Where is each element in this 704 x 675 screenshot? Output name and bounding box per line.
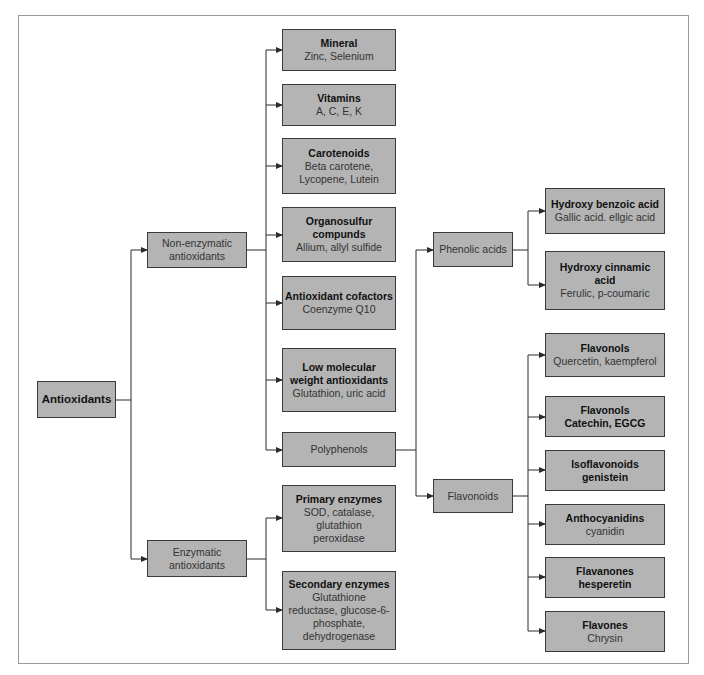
node-label: Polyphenols bbox=[310, 443, 367, 456]
node-label: Phenolic acids bbox=[439, 243, 507, 256]
node-sub: Ferulic, p-coumaric bbox=[560, 287, 649, 300]
node-vitamins: Vitamins A, C, E, K bbox=[282, 84, 396, 126]
node-sub: Allium, allyl sulfide bbox=[296, 241, 382, 254]
node-title-2: genistein bbox=[582, 471, 628, 484]
node-title: Hydroxy benzoic acid bbox=[551, 198, 659, 211]
node-polyphenols: Polyphenols bbox=[282, 432, 396, 467]
node-label: Flavonoids bbox=[448, 490, 499, 503]
node-primary-enzymes: Primary enzymes SOD, catalase, glutathio… bbox=[282, 485, 396, 552]
node-label: Enzymatic antioxidants bbox=[150, 546, 244, 572]
node-title-2: Catechin, EGCG bbox=[564, 417, 645, 430]
node-isoflavonoids: Isoflavonoids genistein bbox=[545, 450, 665, 491]
node-non-enzymatic-antioxidants: Non-enzymatic antioxidants bbox=[147, 232, 247, 268]
node-sub: Quercetin, kaempferol bbox=[553, 355, 656, 368]
node-anthocyanidins: Anthocyanidins cyanidin bbox=[545, 504, 665, 545]
node-title: Flavones bbox=[582, 619, 628, 632]
node-secondary-enzymes: Secondary enzymes Glutathione reductase,… bbox=[282, 571, 396, 650]
node-sub: Beta carotene, Lycopene, Lutein bbox=[285, 160, 393, 186]
node-title: Anthocyanidins bbox=[566, 512, 645, 525]
node-label: Non-enzymatic antioxidants bbox=[150, 237, 244, 263]
node-title: Flavonols bbox=[580, 342, 629, 355]
node-hydroxy-benzoic-acid: Hydroxy benzoic acid Gallic acid. ellgic… bbox=[545, 188, 665, 234]
node-title: Carotenoids bbox=[308, 147, 369, 160]
node-title: Antioxidant cofactors bbox=[285, 290, 393, 303]
node-antioxidants: Antioxidants bbox=[37, 381, 116, 418]
node-flavonoids: Flavonoids bbox=[433, 479, 513, 513]
node-title: Hydroxy cinnamic acid bbox=[548, 261, 662, 287]
node-title: Flavanones bbox=[576, 565, 634, 578]
node-sub: Glutathione reductase, glucose-6-phospha… bbox=[285, 591, 393, 643]
node-sub: Glutathion, uric acid bbox=[293, 387, 386, 400]
node-title: Secondary enzymes bbox=[289, 578, 390, 591]
node-sub: Chrysin bbox=[587, 632, 623, 645]
node-phenolic-acids: Phenolic acids bbox=[433, 232, 513, 267]
node-title: Isoflavonoids bbox=[571, 458, 639, 471]
node-flavonols-catechin: Flavonols Catechin, EGCG bbox=[545, 396, 665, 437]
node-carotenoids: Carotenoids Beta carotene, Lycopene, Lut… bbox=[282, 138, 396, 194]
node-title: Organosulfur compunds bbox=[285, 215, 393, 241]
node-organosulfur-compunds: Organosulfur compunds Allium, allyl sulf… bbox=[282, 207, 396, 262]
node-flavones: Flavones Chrysin bbox=[545, 611, 665, 652]
node-title-2: hesperetin bbox=[578, 578, 631, 591]
node-hydroxy-cinnamic-acid: Hydroxy cinnamic acid Ferulic, p-coumari… bbox=[545, 251, 665, 310]
node-title: Antioxidants bbox=[42, 393, 112, 406]
node-mineral: Mineral Zinc, Selenium bbox=[282, 29, 396, 71]
node-low-molecular-weight-antioxidants: Low molecular weight antioxidants Glutat… bbox=[282, 348, 396, 412]
node-title: Flavonols bbox=[580, 404, 629, 417]
node-sub: SOD, catalase, glutathion peroxidase bbox=[285, 506, 393, 545]
node-title: Vitamins bbox=[317, 92, 361, 105]
node-title: Primary enzymes bbox=[296, 493, 382, 506]
node-sub: Gallic acid. ellgic acid bbox=[555, 211, 655, 224]
node-sub: Coenzyme Q10 bbox=[303, 303, 376, 316]
node-sub: cyanidin bbox=[586, 525, 625, 538]
node-sub: Zinc, Selenium bbox=[304, 50, 373, 63]
node-flavonols-quercetin: Flavonols Quercetin, kaempferol bbox=[545, 333, 665, 377]
node-flavanones: Flavanones hesperetin bbox=[545, 557, 665, 598]
node-title: Low molecular weight antioxidants bbox=[285, 361, 393, 387]
node-enzymatic-antioxidants: Enzymatic antioxidants bbox=[147, 540, 247, 577]
node-sub: A, C, E, K bbox=[316, 105, 362, 118]
node-antioxidant-cofactors: Antioxidant cofactors Coenzyme Q10 bbox=[282, 276, 396, 330]
node-title: Mineral bbox=[321, 37, 358, 50]
